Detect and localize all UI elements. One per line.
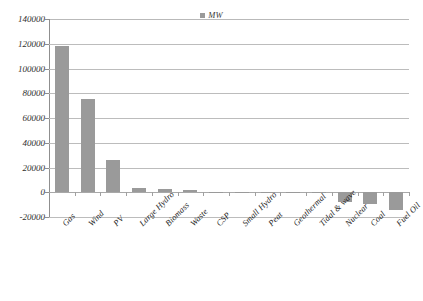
- bar-slot: [332, 19, 358, 217]
- x-label-slot: Gas: [49, 217, 75, 301]
- bar-slot: [75, 19, 101, 217]
- bar-slot: [100, 19, 126, 217]
- x-label-slot: Small Hydro: [229, 217, 255, 301]
- bar[interactable]: [132, 188, 146, 192]
- y-axis-labels: -200000200004000060000800001000001200001…: [0, 19, 45, 217]
- x-label-slot: Tidal & wave: [306, 217, 332, 301]
- bar-series-mw: [49, 19, 409, 217]
- x-label-slot: CSP: [203, 217, 229, 301]
- bar[interactable]: [286, 192, 300, 193]
- bar-slot: [178, 19, 204, 217]
- x-label-slot: Waste: [178, 217, 204, 301]
- x-label-slot: Nuclear: [332, 217, 358, 301]
- y-tick-label: 100000: [18, 64, 45, 74]
- x-label-slot: Biomass: [152, 217, 178, 301]
- bar-slot: [229, 19, 255, 217]
- legend-swatch-icon: [200, 13, 205, 18]
- x-tick: [409, 192, 410, 196]
- plot-area: [49, 19, 409, 217]
- bar-slot: [383, 19, 409, 217]
- bar-slot: [306, 19, 332, 217]
- x-label-slot: Large Hydro: [126, 217, 152, 301]
- bar[interactable]: [81, 99, 95, 192]
- y-tick-label: 40000: [23, 138, 46, 148]
- y-tick-label: 140000: [18, 14, 45, 24]
- y-tick-label: 60000: [23, 113, 46, 123]
- bar-slot: [280, 19, 306, 217]
- bar[interactable]: [209, 192, 223, 193]
- x-label-slot: Wind: [75, 217, 101, 301]
- x-label-slot: Fuel Oil: [383, 217, 409, 301]
- bar-slot: [203, 19, 229, 217]
- x-label-slot: Geothermal: [280, 217, 306, 301]
- x-label-slot: Peat: [255, 217, 281, 301]
- bar-slot: [358, 19, 384, 217]
- bar-slot: [152, 19, 178, 217]
- x-label-slot: PV: [100, 217, 126, 301]
- y-tick-label: 80000: [23, 88, 46, 98]
- y-tick-label: 20000: [23, 163, 46, 173]
- bar[interactable]: [235, 192, 249, 193]
- bar-slot: [255, 19, 281, 217]
- y-tick-label: -20000: [20, 212, 46, 222]
- bar-slot: [126, 19, 152, 217]
- bar[interactable]: [363, 192, 377, 204]
- y-tick-label: 120000: [18, 39, 45, 49]
- bar[interactable]: [55, 46, 69, 192]
- bar-slot: [49, 19, 75, 217]
- bar[interactable]: [106, 160, 120, 192]
- x-label-slot: Coal: [358, 217, 384, 301]
- x-axis-labels: GasWindPVLarge HydroBiomassWasteCSPSmall…: [49, 217, 409, 301]
- bar[interactable]: [389, 192, 403, 209]
- bar-chart: MW -200000200004000060000800001000001200…: [0, 0, 423, 301]
- bar[interactable]: [183, 190, 197, 192]
